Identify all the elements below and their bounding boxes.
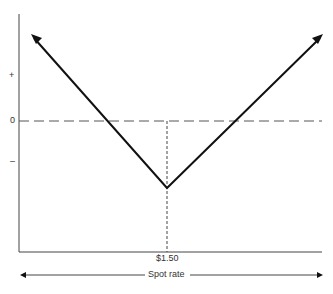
- x-axis-title: Spot rate: [148, 269, 185, 279]
- arrow-right-icon: [317, 272, 323, 278]
- arrow-left-icon: [31, 34, 42, 44]
- y-label-zero: 0: [10, 115, 15, 125]
- arrow-right-icon: [312, 34, 323, 44]
- y-label-plus: +: [9, 70, 14, 80]
- payoff-line: [34, 38, 320, 188]
- x-label-strike: $1.50: [156, 253, 179, 263]
- arrow-left-icon: [20, 272, 26, 278]
- payoff-chart: [0, 0, 333, 294]
- y-label-minus: –: [10, 156, 15, 166]
